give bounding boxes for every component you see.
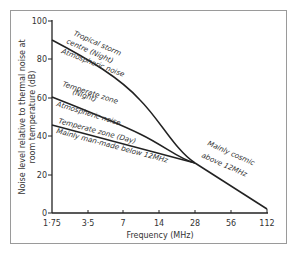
y-tick-60: 60 (37, 94, 47, 103)
x-tick-14: 14 (154, 219, 164, 228)
y-tick-0: 0 (42, 209, 47, 218)
x-tick-28: 28 (190, 219, 200, 228)
x-tick-56: 56 (226, 219, 236, 228)
y-axis-label-line2: room temperature (dB) (28, 71, 37, 164)
x-axis-label: Frequency (MHz) (126, 231, 193, 240)
y-tick-100: 100 (32, 17, 47, 26)
y-tick-20: 20 (37, 171, 47, 180)
y-axis-label-line1: Noise level relative to thermal noise at (18, 39, 27, 194)
noise-chart: 100 80 60 40 20 0 1·75 3·5 7 14 28 56 11… (0, 0, 295, 256)
x-tick-7: 7 (120, 219, 125, 228)
x-tick-labels: 1·75 3·5 7 14 28 56 112 (43, 219, 275, 228)
y-tick-80: 80 (37, 55, 47, 64)
annotations: Tropical storm centre (Night) Atmospheri… (54, 29, 256, 179)
x-tick-112: 112 (259, 219, 274, 228)
x-tick-3-5: 3·5 (82, 219, 95, 228)
x-tick-1-75: 1·75 (43, 219, 61, 228)
y-tick-40: 40 (37, 132, 47, 141)
